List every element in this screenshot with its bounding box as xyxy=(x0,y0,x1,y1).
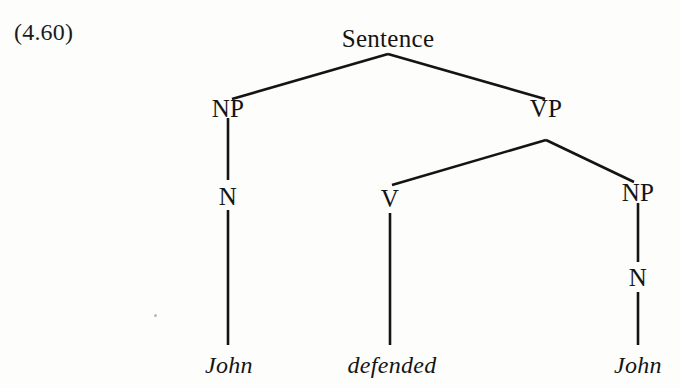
tree-edges xyxy=(0,0,680,388)
node-object-np: NP xyxy=(622,180,655,205)
scan-speck xyxy=(154,314,157,317)
edge-vp-to-np xyxy=(546,140,634,182)
example-number-label: (4.60) xyxy=(14,20,73,44)
node-verb-v: V xyxy=(381,186,399,211)
node-subject-n: N xyxy=(219,184,237,209)
node-sentence: Sentence xyxy=(342,26,435,51)
leaf-subject-word: John xyxy=(205,353,253,377)
node-object-n: N xyxy=(629,265,647,290)
edge-sentence-to-vp xyxy=(388,54,545,99)
edge-vp-to-v xyxy=(392,140,546,185)
node-vp: VP xyxy=(530,96,563,121)
node-subject-np: NP xyxy=(212,96,245,121)
syntax-tree-figure: (4.60) Sentence NP VP N V NP N John defe… xyxy=(0,0,680,388)
edge-sentence-to-np xyxy=(232,54,388,99)
leaf-object-word: John xyxy=(614,353,662,377)
leaf-verb-word: defended xyxy=(347,353,436,377)
